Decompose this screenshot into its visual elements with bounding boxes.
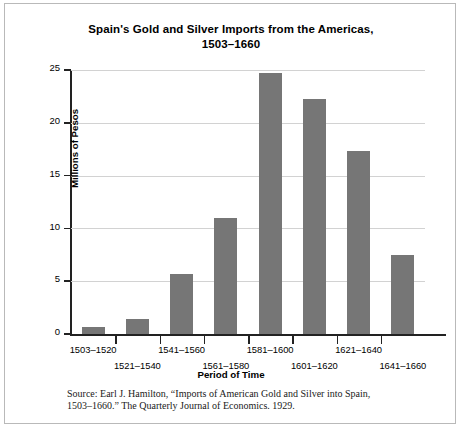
chart-figure: Spain's Gold and Silver Imports from the… xyxy=(4,3,456,424)
x-axis-title: Period of Time xyxy=(5,369,457,380)
y-tick-label: 15 xyxy=(49,168,60,179)
bar xyxy=(126,319,149,334)
y-axis-title: Millions of Pesos xyxy=(69,109,80,188)
gridline xyxy=(71,228,425,229)
source-line-1: Source: Earl J. Hamilton, “Imports of Am… xyxy=(67,388,437,400)
chart-title-line-2: 1503–1660 xyxy=(5,37,457,52)
x-tick-label: 1503–1520 xyxy=(70,344,117,355)
bar xyxy=(391,255,414,334)
chart-title-line-1: Spain's Gold and Silver Imports from the… xyxy=(88,23,373,35)
plot-area: 0510152025 1503–15201521–15401541–156015… xyxy=(71,70,425,334)
gridline xyxy=(71,123,425,124)
chart-title: Spain's Gold and Silver Imports from the… xyxy=(5,22,457,52)
bar xyxy=(259,73,282,334)
gridline xyxy=(71,70,425,71)
bar xyxy=(82,327,105,334)
x-tick xyxy=(381,335,383,344)
y-tick: 0 xyxy=(64,333,71,335)
x-tick-label: 1581–1600 xyxy=(247,344,294,355)
source-line-2: 1503–1660.” The Quarterly Journal of Eco… xyxy=(67,400,437,412)
x-tick-label: 1541–1560 xyxy=(158,344,205,355)
y-tick: 10 xyxy=(64,228,71,230)
x-tick xyxy=(248,335,250,344)
y-tick-label: 25 xyxy=(49,62,60,73)
bar xyxy=(303,99,326,334)
bar xyxy=(170,274,193,334)
x-tick xyxy=(337,335,339,344)
y-tick-label: 20 xyxy=(49,115,60,126)
x-tick xyxy=(204,335,206,344)
x-tick xyxy=(115,335,117,344)
y-tick-label: 5 xyxy=(55,273,60,284)
x-tick xyxy=(292,335,294,344)
gridline xyxy=(71,176,425,177)
bar xyxy=(347,151,370,334)
y-tick: 5 xyxy=(64,280,71,282)
y-tick-label: 10 xyxy=(49,221,60,232)
y-tick: 25 xyxy=(64,69,71,71)
x-tick xyxy=(160,335,162,344)
source-note: Source: Earl J. Hamilton, “Imports of Am… xyxy=(67,388,437,413)
y-tick-label: 0 xyxy=(55,326,60,337)
x-axis-line xyxy=(70,334,446,336)
gridline xyxy=(71,281,425,282)
x-tick-label: 1621–1640 xyxy=(335,344,382,355)
bar xyxy=(214,218,237,334)
